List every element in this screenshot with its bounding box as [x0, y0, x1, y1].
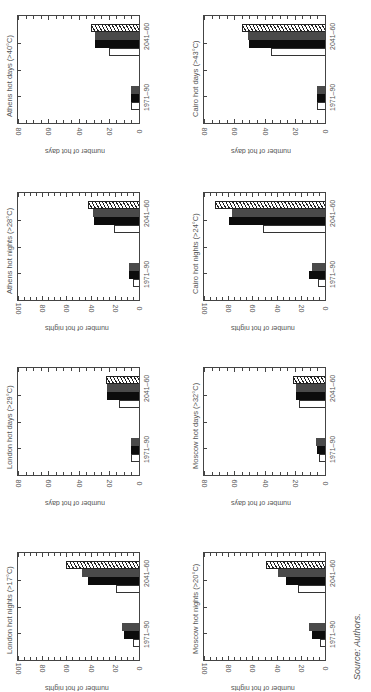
- axis-tick: [101, 16, 102, 19]
- axis-tick: [216, 193, 217, 196]
- axis-tick: [127, 657, 128, 660]
- bar-2041-60-white: [298, 585, 325, 593]
- axis-tick: [79, 16, 80, 20]
- axis-tick: [18, 368, 19, 372]
- value-tick-label: 0: [322, 662, 329, 676]
- axis-tick: [124, 472, 125, 475]
- bar-2041-60-black: [286, 577, 325, 585]
- value-tick-label: 80: [201, 125, 208, 139]
- axis-tick: [317, 472, 318, 475]
- value-tick-label: 40: [87, 662, 94, 676]
- axis-tick: [48, 119, 49, 123]
- axis-tick: [227, 368, 228, 371]
- axis-tick: [302, 368, 303, 371]
- panel-title: Athens hot days (>40°C): [5, 35, 14, 117]
- panel-title: Cairo hot nights (>24°C): [191, 213, 200, 294]
- plot-area: [17, 192, 140, 301]
- period-label: 1971–90: [329, 84, 336, 111]
- axis-tick: [18, 119, 19, 123]
- axis-tick: [249, 472, 250, 475]
- axis-tick: [242, 368, 243, 371]
- axis-tick: [94, 472, 95, 475]
- value-tick-label: 20: [291, 125, 298, 139]
- axis-tick: [79, 657, 80, 660]
- axis-tick: [265, 368, 266, 372]
- period-label: 1971–90: [143, 84, 150, 111]
- axis-tick: [72, 657, 73, 660]
- axis-tick: [271, 553, 272, 556]
- axis-tick: [24, 553, 25, 556]
- axis-tick: [204, 553, 205, 557]
- axis-tick: [295, 553, 296, 556]
- axis-tick: [18, 633, 21, 634]
- value-tick-label: 20: [105, 125, 112, 139]
- axis-tick: [234, 193, 235, 196]
- axis-tick: [258, 553, 259, 556]
- axis-tick: [42, 193, 43, 197]
- axis-tick: [18, 16, 19, 20]
- value-tick-label: 0: [322, 125, 329, 139]
- axis-tick: [139, 16, 140, 20]
- axis-tick: [295, 657, 296, 660]
- bar-1971-90-white: [318, 279, 325, 287]
- axis-tick: [133, 193, 134, 196]
- axis-tick: [18, 296, 19, 300]
- axis-tick: [295, 368, 296, 372]
- bar-1971-90-gray: [129, 263, 139, 271]
- axis-tick: [216, 657, 217, 660]
- axis-tick: [86, 368, 87, 371]
- bar-1971-90-gray: [131, 86, 139, 94]
- period-label: 2041–60: [329, 560, 336, 587]
- axis-tick: [109, 16, 110, 20]
- axis-tick: [219, 472, 220, 475]
- axis-tick: [289, 553, 290, 556]
- bar-2041-60-black: [88, 577, 139, 585]
- axis-tick: [121, 553, 122, 556]
- axis-tick: [30, 553, 31, 556]
- axis-tick: [63, 368, 64, 371]
- axis-tick: [228, 656, 229, 660]
- axis-tick: [216, 553, 217, 556]
- axis-tick: [325, 553, 326, 557]
- value-tick-label: 0: [322, 302, 329, 316]
- value-tick-label: 80: [225, 662, 232, 676]
- axis-tick: [227, 120, 228, 123]
- axis-tick: [101, 368, 102, 371]
- bar-2041-60-hatch: [215, 201, 325, 209]
- axis-tick: [101, 120, 102, 123]
- axis-tick: [252, 193, 253, 197]
- axis-tick: [36, 657, 37, 660]
- value-tick-label: 20: [105, 477, 112, 491]
- axis-tick: [307, 553, 308, 556]
- period-label: 1971–90: [143, 621, 150, 648]
- value-tick-label: 60: [231, 125, 238, 139]
- axis-tick: [204, 193, 205, 197]
- panel-title: London hot days (>29°C): [5, 385, 14, 469]
- axis-tick: [109, 297, 110, 300]
- axis-tick: [115, 656, 116, 660]
- axis-tick: [204, 580, 207, 581]
- axis-tick: [325, 296, 326, 300]
- axis-tick: [258, 657, 259, 660]
- axis-tick: [121, 297, 122, 300]
- axis-tick: [139, 471, 140, 475]
- bar-1971-90-gray: [122, 623, 139, 631]
- axis-tick: [289, 657, 290, 660]
- axis-tick: [289, 297, 290, 300]
- period-label: 2041–60: [143, 375, 150, 402]
- axis-tick: [272, 16, 273, 19]
- value-tick-label: 20: [111, 302, 118, 316]
- value-tick-label: 0: [136, 125, 143, 139]
- axis-tick: [310, 368, 311, 371]
- value-tick-label: 60: [249, 662, 256, 676]
- axis-tick: [41, 120, 42, 123]
- value-axis-label: number of hot days: [231, 500, 291, 507]
- plot-area: [17, 367, 140, 476]
- panel-title: Moscow hot days (>32°C): [191, 383, 200, 469]
- axis-tick: [325, 193, 326, 197]
- axis-tick: [204, 220, 207, 221]
- bar-2041-60-gray: [107, 384, 139, 392]
- axis-tick: [227, 16, 228, 19]
- value-tick-label: 60: [231, 477, 238, 491]
- bar-2041-60-black: [229, 217, 325, 225]
